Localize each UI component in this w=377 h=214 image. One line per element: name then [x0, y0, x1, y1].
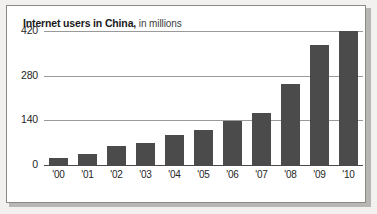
x-axis-tick-label: '03 — [131, 170, 160, 180]
bar — [136, 143, 155, 165]
x-axis-tick-label: '01 — [73, 170, 102, 180]
x-axis-tick-label: '10 — [334, 170, 363, 180]
x-axis-tick-label: '06 — [218, 170, 247, 180]
bar — [165, 135, 184, 165]
x-axis-tick-label: '07 — [247, 170, 276, 180]
gridline-420 — [44, 31, 363, 32]
bar — [107, 146, 126, 165]
x-axis-tick-label: '08 — [276, 170, 305, 180]
y-axis-tick-label: 140 — [21, 114, 38, 125]
y-axis-tick-label: 0 — [32, 159, 38, 170]
x-axis-tick-label: '05 — [189, 170, 218, 180]
bar — [78, 154, 97, 165]
bar — [281, 84, 300, 165]
y-axis-tick-label: 280 — [21, 70, 38, 81]
bar — [339, 31, 358, 165]
x-axis-tick-label: '04 — [160, 170, 189, 180]
y-axis-tick-label: 420 — [21, 25, 38, 36]
x-axis-tick-label: '09 — [305, 170, 334, 180]
x-axis-tick-label: '00 — [44, 170, 73, 180]
bar — [194, 130, 213, 165]
plot-area: 0140280420'00'01'02'03'04'05'06'07'08'09… — [0, 0, 377, 214]
bar — [252, 113, 271, 165]
bar — [310, 45, 329, 165]
x-axis-line — [44, 165, 363, 166]
x-axis-tick-label: '02 — [102, 170, 131, 180]
bar — [223, 121, 242, 165]
bar — [49, 158, 68, 165]
figure-background: Internet users in China, in millions 014… — [0, 0, 377, 214]
